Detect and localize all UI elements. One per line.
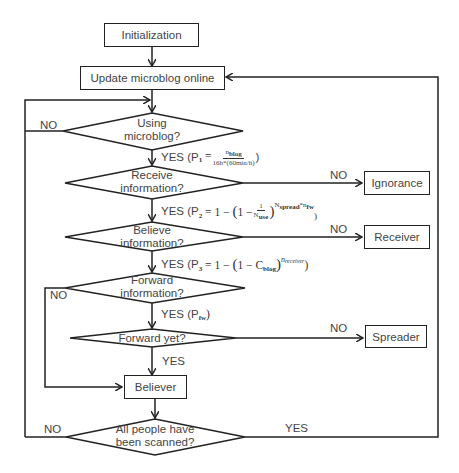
close-paren: )	[304, 259, 308, 271]
label-no-forward: NO	[50, 290, 67, 302]
decision-line: microblog?	[112, 130, 192, 143]
decision-line: been scanned?	[105, 436, 205, 449]
decision-line: information?	[107, 182, 197, 195]
decision-line: Using	[112, 117, 192, 130]
node-label: Update microblog online	[90, 72, 214, 84]
node-initialization: Initialization	[104, 23, 199, 47]
decision-line: All people have	[105, 423, 205, 436]
decision-line: Forward	[107, 274, 197, 287]
decision-line: Forward yet?	[107, 332, 197, 345]
den-sub: use	[259, 213, 269, 221]
node-label: Believer	[135, 381, 177, 393]
yes-text: YES (P	[161, 152, 199, 164]
exp-rest: *n	[300, 201, 307, 209]
node-label: Receiver	[374, 231, 419, 243]
p1-fraction: nblog 16h*(60min/h)	[213, 148, 255, 167]
node-update-microblog: Update microblog online	[80, 66, 225, 90]
yes-text: YES (P	[161, 206, 199, 218]
close-paren: )	[206, 308, 210, 320]
inner: 1 −	[237, 206, 252, 218]
inner: 1 − C	[237, 259, 263, 271]
equals: = 1 −	[202, 206, 232, 218]
p2-fraction: 1 Nuse	[254, 202, 269, 221]
num: 1	[257, 202, 265, 211]
close-paren: )	[314, 212, 317, 221]
label-yes-p2: YES (P2 = 1 − (1 − 1 Nuse ) Nspread*nfw …	[161, 202, 317, 221]
exp-sub: receiver	[285, 258, 304, 264]
node-spreader: Spreader	[365, 325, 427, 348]
decision-line: information?	[107, 237, 197, 250]
node-label: Initialization	[121, 29, 181, 41]
node-believer: Believer	[124, 375, 187, 399]
label-no-using: NO	[40, 120, 57, 132]
close-paren: )	[256, 152, 260, 164]
exp-sub2: fw	[307, 203, 314, 211]
yes-text: YES (P	[161, 308, 199, 320]
node-receiver: Receiver	[364, 225, 430, 249]
node-label: Spreader	[372, 331, 419, 343]
label-yes-p1: YES (P1 = nblog 16h*(60min/h) )	[161, 148, 259, 167]
decision-receive-information: Receive information?	[107, 169, 197, 195]
decision-using-microblog: Using microblog?	[112, 117, 192, 143]
label-yes-pfw: YES (Pfw)	[161, 309, 210, 322]
label-yes-forward-yet: YES	[162, 356, 185, 368]
decision-all-scanned: All people have been scanned?	[105, 423, 205, 449]
label-yes-scanned: YES	[285, 423, 308, 435]
label-no-forward-yet: NO	[330, 323, 347, 335]
label-no-scanned: NO	[44, 424, 61, 436]
decision-forward-information: Forward information?	[107, 274, 197, 300]
num-sub: blog	[229, 150, 242, 158]
decision-line: Believe	[107, 224, 197, 237]
node-label: Ignorance	[371, 177, 422, 189]
p2-exponent: Nspread*nfw	[274, 202, 314, 211]
p-subscript: fw	[199, 314, 206, 322]
label-yes-p3: YES (P3 = 1 − (1 − Cblog)nreceiver)	[161, 256, 308, 273]
equals: =	[202, 150, 211, 162]
label-no-receive: NO	[330, 170, 347, 182]
yes-text: YES (P	[161, 259, 199, 271]
exp-sub: spread	[279, 203, 299, 211]
label-no-believe: NO	[330, 224, 347, 236]
node-ignorance: Ignorance	[364, 171, 430, 195]
inner-sub: blog	[263, 265, 276, 273]
decision-line: information?	[107, 287, 197, 300]
den: 16h*(60min/h)	[213, 159, 255, 167]
decision-believe-information: Believe information?	[107, 224, 197, 250]
decision-line: Receive	[107, 169, 197, 182]
equals: = 1 −	[202, 259, 232, 271]
decision-forward-yet: Forward yet?	[107, 332, 197, 345]
